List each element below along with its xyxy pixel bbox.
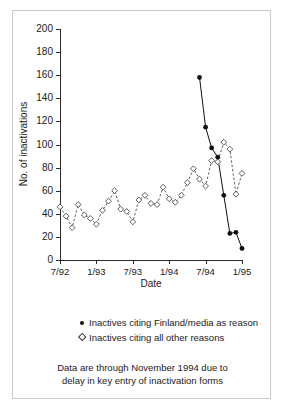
marker-filled-circle — [234, 230, 239, 235]
chart-legend: Inactives citing Finland/media as reason… — [75, 315, 265, 345]
y-tick-label: 180 — [36, 47, 53, 57]
data-series-layer — [60, 29, 242, 260]
figure-panel: No. of inactivations Date 02040608010012… — [12, 10, 271, 399]
y-tick-label: 200 — [36, 24, 53, 34]
marker-open-diamond — [154, 202, 160, 208]
marker-open-diamond — [215, 159, 221, 165]
marker-open-diamond — [112, 188, 118, 194]
marker-filled-circle — [203, 125, 208, 130]
x-axis-line — [60, 260, 242, 261]
marker-open-diamond — [148, 201, 154, 207]
marker-filled-circle — [221, 193, 226, 198]
marker-open-diamond — [69, 225, 75, 231]
x-tick-label: 7/93 — [124, 267, 143, 277]
x-axis-title: Date — [140, 278, 161, 289]
x-tick — [60, 260, 61, 264]
y-tick-label: 160 — [36, 70, 53, 80]
marker-filled-circle — [209, 146, 214, 151]
marker-open-diamond — [106, 198, 112, 204]
marker-open-diamond — [166, 196, 172, 202]
series-other-reasons — [57, 139, 245, 230]
x-tick-label: 7/94 — [196, 267, 215, 277]
legend-item-finland-media: Inactives citing Finland/media as reason — [75, 315, 265, 330]
y-tick-label: 0 — [47, 255, 53, 265]
figure-note: Data are through November 1994 due to de… — [13, 361, 272, 387]
marker-open-diamond — [209, 158, 215, 164]
marker-open-diamond — [233, 191, 239, 197]
marker-open-diamond — [185, 180, 191, 186]
x-tick-label: 1/95 — [233, 267, 252, 277]
marker-open-diamond — [75, 202, 81, 208]
marker-open-diamond — [197, 176, 203, 182]
figure-note-line-1: Data are through November 1994 due to — [13, 361, 272, 374]
marker-open-diamond — [87, 216, 93, 222]
x-tick-label: 1/93 — [87, 267, 106, 277]
marker-open-diamond — [227, 146, 233, 152]
y-tick-label: 140 — [36, 93, 53, 103]
x-tick — [169, 260, 170, 264]
marker-open-diamond — [81, 212, 87, 218]
x-tick — [242, 260, 243, 264]
figure-note-line-2: delay in key entry of inactivation forms — [13, 374, 272, 387]
series-finland-media — [197, 75, 244, 251]
y-tick-label: 80 — [42, 163, 53, 173]
x-tick — [206, 260, 207, 264]
marker-open-diamond — [100, 207, 106, 213]
legend-label: Inactives citing all other reasons — [89, 332, 224, 343]
plot-area: 020406080100120140160180200 7/921/937/93… — [60, 29, 242, 260]
legend-item-other-reasons: Inactives citing all other reasons — [75, 330, 265, 345]
marker-open-diamond — [57, 204, 63, 210]
marker-filled-circle — [227, 231, 232, 236]
marker-open-diamond — [63, 213, 69, 219]
x-tick — [96, 260, 97, 264]
marker-open-diamond — [203, 183, 209, 189]
y-tick-label: 100 — [36, 140, 53, 150]
marker-open-diamond — [239, 170, 245, 176]
series-line — [200, 78, 242, 249]
marker-open-diamond — [142, 192, 148, 198]
y-tick-label: 120 — [36, 116, 53, 126]
marker-open-diamond — [118, 206, 124, 212]
y-tick-label: 20 — [42, 232, 53, 242]
marker-open-diamond — [124, 209, 130, 215]
marker-open-diamond — [191, 166, 197, 172]
open-diamond-icon — [75, 334, 89, 340]
filled-circle-icon — [75, 321, 89, 325]
y-tick-label: 40 — [42, 209, 53, 219]
x-tick-label: 7/92 — [51, 267, 70, 277]
marker-open-diamond — [221, 139, 227, 145]
x-tick — [133, 260, 134, 264]
y-axis-title: No. of inactivations — [18, 102, 29, 187]
marker-open-diamond — [160, 184, 166, 190]
x-tick-label: 1/94 — [160, 267, 179, 277]
legend-label: Inactives citing Finland/media as reason — [89, 317, 258, 328]
y-tick-label: 60 — [42, 186, 53, 196]
marker-open-diamond — [130, 219, 136, 225]
marker-filled-circle — [240, 246, 245, 251]
marker-filled-circle — [197, 75, 202, 80]
